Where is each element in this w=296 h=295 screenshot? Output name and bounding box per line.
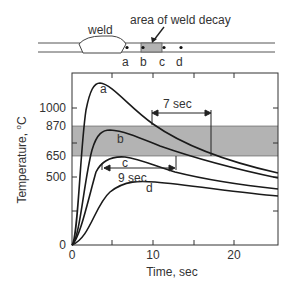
weld-bead [79,36,126,53]
label-9-sec: 9 sec [118,171,147,185]
point-label-c: c [159,55,165,69]
label-7-sec: 7 sec [163,97,192,111]
curve-label-d: d [146,181,153,195]
point-label-a: a [122,55,129,69]
point-a [125,46,128,49]
point-d [179,46,182,49]
curve-label-a: a [100,82,107,96]
temperature-chart: a b c d 7 sec 9 sec 1000 870 650 500 0 0 [14,73,278,279]
ytick-0: 0 [59,238,66,252]
decay-label: area of weld decay [130,13,231,27]
ytick-500: 500 [46,170,66,184]
xtick-20: 20 [227,248,241,262]
y-axis-title: Temperature, oC [14,116,29,204]
xtick-0: 0 [69,248,76,262]
xtick-10: 10 [146,248,160,262]
point-label-d: d [176,55,183,69]
plate-schematic: weld area of weld decay a b c d [38,13,275,69]
curve-label-b: b [117,132,124,146]
weld-label: weld [87,23,113,37]
point-c [162,46,165,49]
ytick-650: 650 [46,149,66,163]
svg-text:Temperature, oC: Temperature, oC [14,116,29,204]
x-axis-title: Time, sec [146,265,198,279]
point-b [141,46,144,49]
point-label-b: b [140,55,147,69]
ytick-1000: 1000 [39,101,66,115]
curve-d [72,181,278,245]
weld-decay-diagram: weld area of weld decay a b c d [0,0,296,295]
ytick-870: 870 [46,119,66,133]
